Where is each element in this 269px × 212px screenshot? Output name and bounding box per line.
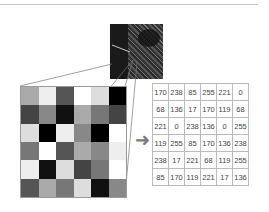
value-cell: 0 [169,118,185,135]
pixel-cell [56,142,74,160]
value-cell: 119 [185,169,201,186]
pixel-cell [91,179,109,197]
pixel-cell [74,105,92,123]
pixel-cell [56,87,74,105]
pixel-grid [20,86,127,198]
value-cell: 85 [153,169,169,186]
pixel-cell [91,87,109,105]
value-cell: 255 [201,84,217,101]
pixel-cell [39,124,57,142]
pixel-cell [39,142,57,160]
pixel-cell [109,124,127,142]
value-cell: 17 [217,169,233,186]
pixel-cell [109,142,127,160]
pixel-value-table: 1702388525522106813617170119682210238136… [152,83,249,186]
value-cell: 136 [217,135,233,152]
value-cell: 170 [201,101,217,118]
value-cell: 85 [185,135,201,152]
value-cell: 136 [169,101,185,118]
table-row: 11925585170136238 [153,135,249,152]
top-divider [0,4,258,5]
value-cell: 221 [201,169,217,186]
value-cell: 119 [217,152,233,169]
value-cell: 255 [233,118,249,135]
pixel-cell [91,160,109,178]
value-cell: 17 [185,101,201,118]
value-cell: 68 [233,101,249,118]
value-cell: 170 [169,169,185,186]
pixel-cell [21,142,39,160]
pixel-cell [39,105,57,123]
table-row: 22102381360255 [153,118,249,135]
value-cell: 0 [233,84,249,101]
pixel-cell [39,87,57,105]
pixel-cell [56,124,74,142]
pixel-cell [39,179,57,197]
pixel-cell [21,87,39,105]
right-arrow-icon: ➜ [135,131,150,149]
value-cell: 221 [217,84,233,101]
table-row: 681361717011968 [153,101,249,118]
value-cell: 136 [201,118,217,135]
pixel-cell [91,124,109,142]
table-row: 170238852552210 [153,84,249,101]
pixel-cell [21,124,39,142]
pixel-cell [91,105,109,123]
value-cell: 68 [153,101,169,118]
pixel-cell [109,179,127,197]
value-cell: 170 [201,135,217,152]
value-cell: 136 [233,169,249,186]
pixel-cell [21,179,39,197]
pixel-cell [91,142,109,160]
value-cell: 0 [217,118,233,135]
pixel-cell [56,160,74,178]
pixel-cell [74,124,92,142]
photo-texture-dark [138,29,160,47]
value-cell: 255 [233,152,249,169]
value-cell: 221 [153,118,169,135]
value-cell: 119 [217,101,233,118]
value-cell: 68 [201,152,217,169]
pixel-cell [74,160,92,178]
pixel-cell [56,105,74,123]
value-cell: 221 [185,152,201,169]
table-row: 8517011922117136 [153,169,249,186]
value-cell: 238 [233,135,249,152]
source-photo [110,24,163,79]
value-cell: 255 [169,135,185,152]
value-cell: 17 [169,152,185,169]
value-cell: 119 [153,135,169,152]
value-cell: 238 [169,84,185,101]
pixel-cell [21,160,39,178]
pixel-cell [109,105,127,123]
pixel-cell [74,179,92,197]
pixel-cell [74,142,92,160]
value-cell: 238 [185,118,201,135]
pixel-cell [74,87,92,105]
value-cell: 238 [153,152,169,169]
pixel-cell [56,179,74,197]
pixel-cell [109,160,127,178]
table-row: 2381722168119255 [153,152,249,169]
value-cell: 85 [185,84,201,101]
pixel-cell [21,105,39,123]
pixel-cell [39,160,57,178]
pixel-cell [109,87,127,105]
value-cell: 170 [153,84,169,101]
